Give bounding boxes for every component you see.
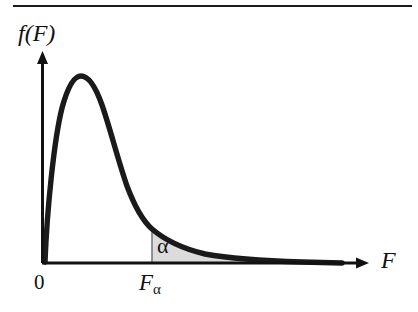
y-axis-label: f(F) [18, 21, 55, 45]
tail-area-label: α [157, 235, 169, 257]
origin-label: 0 [34, 272, 45, 293]
x-axis-arrowhead [356, 258, 369, 269]
y-axis-arrowhead [37, 51, 48, 64]
f-distribution-figure: f(F) F 0 Fα α [0, 0, 418, 312]
critical-value-label: Fα [139, 271, 161, 297]
critical-value-symbol: F [139, 270, 153, 295]
critical-value-subscript: α [153, 281, 161, 297]
x-axis-label: F [381, 248, 396, 272]
density-curve [45, 76, 342, 263]
distribution-plot [0, 0, 418, 312]
